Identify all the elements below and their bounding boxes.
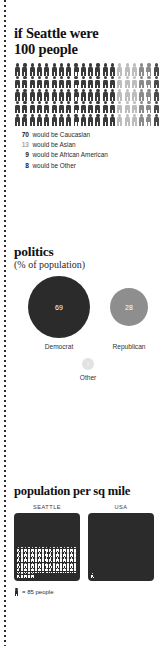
- person-icon: [14, 101, 21, 114]
- person-icon: [94, 76, 101, 89]
- person-icon: [116, 101, 123, 114]
- bubble-democrat: 69: [28, 276, 90, 338]
- infographic-panel: if Seattle were 100 people 70would be Ca…: [0, 0, 165, 646]
- person-icon: [43, 113, 50, 126]
- bubble-chart-politics: 69 Democrat 28 Republican 3 Other: [14, 276, 164, 396]
- person-icon: [153, 76, 160, 89]
- density-box-seattle: [14, 513, 80, 581]
- person-icon: [87, 88, 94, 101]
- person-icon: [21, 63, 28, 76]
- person-icon: [94, 63, 101, 76]
- person-icon: [80, 113, 87, 126]
- density-caption-seattle: SEATTLE: [14, 504, 80, 510]
- person-icon: [123, 76, 130, 89]
- person-icon: [131, 101, 138, 114]
- person-icon: [123, 63, 130, 76]
- person-icon: [58, 63, 65, 76]
- bubble-democrat-value: 69: [55, 304, 63, 311]
- person-icon: [43, 101, 50, 114]
- bubble-other: 3: [82, 358, 94, 370]
- person-icon: [80, 63, 87, 76]
- person-icon: [116, 88, 123, 101]
- section-title-politics: politics: [14, 244, 164, 259]
- person-icon: [131, 113, 138, 126]
- person-icon: [14, 113, 21, 126]
- person-icon: [102, 101, 109, 114]
- legend-row: 8would be Other: [14, 161, 160, 171]
- person-icon: [138, 101, 145, 114]
- person-icon: [102, 113, 109, 126]
- density-box-usa: [88, 513, 154, 581]
- legend-number: 13: [14, 140, 29, 150]
- person-icon: [72, 113, 79, 126]
- person-icon: [145, 113, 152, 126]
- person-icon: [138, 76, 145, 89]
- person-icon: [50, 101, 57, 114]
- person-icon: [80, 101, 87, 114]
- bubble-other-label: Other: [68, 374, 108, 381]
- density-key-text: = 85 people: [22, 589, 54, 595]
- density-col-seattle: SEATTLE: [14, 504, 80, 581]
- person-icon: [131, 63, 138, 76]
- person-icon: [94, 88, 101, 101]
- section-population-density: population per sq mile SEATTLE USA = 85 …: [14, 484, 164, 597]
- person-icon: [29, 63, 36, 76]
- legend-label: would be Other: [33, 161, 76, 171]
- person-icon: [36, 88, 43, 101]
- legend-label: would be Asian: [33, 140, 76, 150]
- person-icon: [131, 76, 138, 89]
- person-icon: [14, 63, 21, 76]
- person-icon: [94, 101, 101, 114]
- legend-number: 9: [14, 150, 29, 160]
- bubble-democrat-label: Democrat: [28, 343, 90, 350]
- person-icon: [50, 88, 57, 101]
- legend-row: 13would be Asian: [14, 140, 160, 150]
- person-icon: [145, 101, 152, 114]
- person-icon: [36, 76, 43, 89]
- person-icon: [73, 568, 77, 573]
- person-icon: [145, 88, 152, 101]
- politics-subtitle: (% of population): [14, 259, 164, 271]
- section-politics: politics (% of population) 69 Democrat 2…: [14, 244, 164, 396]
- person-icon: [65, 101, 72, 114]
- legend-label: would be African American: [33, 150, 108, 160]
- legend-people: 70would be Caucasian13would be Asian9wou…: [14, 130, 160, 170]
- person-icon: [50, 63, 57, 76]
- person-icon: [102, 88, 109, 101]
- person-icon: [116, 76, 123, 89]
- person-icon: [36, 63, 43, 76]
- person-icon: [109, 113, 116, 126]
- person-icon: [87, 101, 94, 114]
- person-icon: [31, 573, 35, 578]
- person-icon: [36, 101, 43, 114]
- person-icon: [65, 88, 72, 101]
- person-icon: [29, 101, 36, 114]
- person-icon: [109, 88, 116, 101]
- mini-pictogram-seattle: [17, 515, 78, 578]
- person-icon: [102, 63, 109, 76]
- legend-number: 8: [14, 161, 29, 171]
- density-key: = 85 people: [14, 588, 164, 597]
- mini-pictogram-usa: [91, 515, 152, 578]
- person-icon: [21, 76, 28, 89]
- person-icon: [138, 113, 145, 126]
- person-icon: [123, 101, 130, 114]
- person-icon: [80, 76, 87, 89]
- person-icon: [87, 113, 94, 126]
- person-icon: [43, 63, 50, 76]
- person-icon: [138, 63, 145, 76]
- person-icon: [109, 63, 116, 76]
- person-icon: [72, 88, 79, 101]
- density-col-usa: USA: [88, 504, 154, 581]
- person-icon: [102, 76, 109, 89]
- person-icon: [29, 88, 36, 101]
- person-icon: [87, 63, 94, 76]
- person-icon: [123, 113, 130, 126]
- person-icon: [153, 63, 160, 76]
- person-icon: [14, 76, 21, 89]
- person-icon: [153, 101, 160, 114]
- person-icon: [138, 88, 145, 101]
- person-icon: [50, 76, 57, 89]
- person-icon: [21, 101, 28, 114]
- person-icon: [72, 76, 79, 89]
